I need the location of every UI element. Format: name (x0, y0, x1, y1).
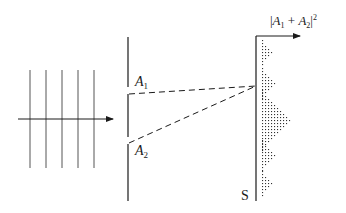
intensity-fringe (262, 68, 275, 99)
interference-pattern (262, 40, 290, 196)
double-slit-diagram: A1 A2 S |A1 + A2|2 (0, 0, 346, 213)
slit-label-a1: A1 (134, 74, 148, 91)
intensity-fringe (262, 140, 275, 171)
screen-label: S (241, 188, 249, 203)
intensity-fringe (262, 90, 290, 151)
intensity-fringe (262, 171, 272, 196)
ray-path-a2 (129, 86, 256, 143)
intensity-fringe (262, 40, 272, 65)
slit-label-a2: A2 (134, 143, 148, 160)
intensity-label: |A1 + A2|2 (270, 13, 317, 30)
